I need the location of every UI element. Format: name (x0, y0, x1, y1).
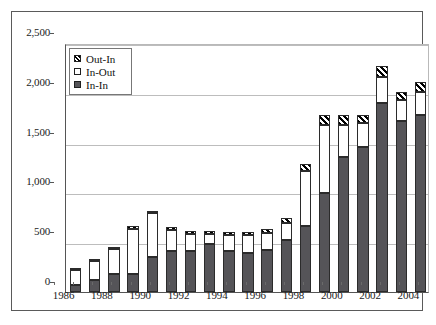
y-axis-tick-label: 1,500 (4, 127, 50, 138)
chart-legend: Out-InIn-OutIn-In (69, 48, 132, 95)
y-axis-tick-label: 0 (4, 276, 50, 287)
bar-segment-in-out[interactable] (204, 234, 215, 244)
bar-segment-out-in[interactable] (147, 211, 158, 214)
bar-segment-in-out[interactable] (127, 229, 138, 274)
y-axis-tick-label: 500 (4, 226, 50, 237)
bar-segment-out-in[interactable] (108, 247, 119, 250)
bar-segment-out-in[interactable] (396, 92, 407, 100)
x-axis-tick-mark (226, 282, 227, 285)
bar-segment-out-in[interactable] (357, 115, 368, 123)
bar-segment-in-in[interactable] (376, 103, 387, 292)
white-swatch-icon (74, 68, 81, 75)
bar-group[interactable] (415, 43, 426, 292)
bar-segment-out-in[interactable] (242, 232, 253, 235)
x-axis-tick-mark (361, 282, 362, 285)
x-axis-tick-mark (303, 282, 304, 285)
x-axis-tick-mark (207, 282, 208, 285)
bar-segment-in-out[interactable] (415, 92, 426, 115)
bar-segment-in-out[interactable] (338, 125, 349, 157)
bar-group[interactable] (204, 43, 215, 292)
bar-group[interactable] (396, 43, 407, 292)
x-axis-tick-mark (322, 282, 323, 285)
bar-segment-in-in[interactable] (300, 226, 311, 292)
legend-item-label: In-Out (86, 66, 115, 78)
bar-segment-in-out[interactable] (147, 213, 158, 257)
bar-segment-out-in[interactable] (281, 218, 292, 222)
bar-group[interactable] (319, 43, 330, 292)
bar-segment-in-in[interactable] (261, 250, 272, 292)
bar-segment-in-in[interactable] (223, 251, 234, 292)
bar-segment-in-out[interactable] (242, 235, 253, 253)
bar-segment-in-in[interactable] (396, 121, 407, 292)
bar-group[interactable] (357, 43, 368, 292)
bar-segment-in-out[interactable] (185, 234, 196, 250)
bar-segment-in-out[interactable] (70, 270, 81, 285)
bar-group[interactable] (376, 43, 387, 292)
bar-segment-out-in[interactable] (70, 268, 81, 271)
bar-segment-in-out[interactable] (357, 123, 368, 146)
bar-group[interactable] (166, 43, 177, 292)
bar-segment-in-in[interactable] (415, 115, 426, 292)
y-axis-tick-mark (50, 83, 54, 84)
bar-segment-in-out[interactable] (166, 230, 177, 251)
bar-segment-in-in[interactable] (319, 193, 330, 292)
bar-segment-in-in[interactable] (242, 253, 253, 292)
bar-segment-in-out[interactable] (281, 223, 292, 240)
bar-segment-in-out[interactable] (89, 261, 100, 280)
x-axis-tick-mark (188, 282, 189, 285)
bar-segment-in-out[interactable] (108, 249, 119, 274)
bar-group[interactable] (281, 43, 292, 292)
bar-segment-in-in[interactable] (357, 147, 368, 292)
bar-group[interactable] (261, 43, 272, 292)
legend-item: In-Out (74, 65, 127, 78)
bar-segment-in-in[interactable] (166, 251, 177, 292)
bar-segment-out-in[interactable] (185, 231, 196, 234)
y-axis-tick-label: 2,500 (4, 27, 50, 38)
y-axis-tick-mark (50, 33, 54, 34)
bar-segment-in-out[interactable] (376, 77, 387, 102)
bar-segment-out-in[interactable] (338, 115, 349, 125)
bar-segment-out-in[interactable] (300, 164, 311, 171)
figure-frame: 05001,0001,5002,0002,500 198619881990199… (11, 11, 423, 311)
bar-segment-in-out[interactable] (300, 171, 311, 227)
bar-segment-in-in[interactable] (281, 240, 292, 292)
bar-segment-out-in[interactable] (415, 82, 426, 92)
x-axis-tick-mark (284, 282, 285, 285)
bar-segment-out-in[interactable] (89, 259, 100, 262)
legend-item: Out-In (74, 52, 127, 65)
y-axis-tick-label: 1,000 (4, 176, 50, 187)
bar-segment-in-out[interactable] (261, 233, 272, 250)
bar-segment-in-out[interactable] (319, 125, 330, 193)
bar-segment-out-in[interactable] (127, 226, 138, 229)
bar-segment-in-out[interactable] (223, 235, 234, 251)
x-axis-tick-label: 2004 (386, 289, 430, 301)
x-axis-tick-mark (169, 282, 170, 285)
bar-group[interactable] (185, 43, 196, 292)
bar-segment-out-in[interactable] (166, 227, 177, 230)
y-axis-tick-mark (50, 232, 54, 233)
x-axis-tick-mark (150, 282, 151, 285)
hatch-swatch-icon (74, 55, 81, 62)
bar-group[interactable] (242, 43, 253, 292)
legend-item-label: In-In (86, 79, 108, 91)
legend-item-label: Out-In (86, 53, 115, 65)
bar-segment-in-in[interactable] (338, 157, 349, 292)
bar-segment-in-in[interactable] (204, 244, 215, 292)
bar-segment-out-in[interactable] (261, 229, 272, 232)
bar-group[interactable] (223, 43, 234, 292)
bar-segment-in-in[interactable] (185, 251, 196, 292)
x-axis-tick-mark (265, 282, 266, 285)
bar-group[interactable] (147, 43, 158, 292)
bar-segment-in-in[interactable] (147, 257, 158, 292)
bar-segment-out-in[interactable] (319, 115, 330, 125)
bar-segment-in-out[interactable] (396, 100, 407, 121)
x-axis-tick-mark (111, 282, 112, 285)
dark-swatch-icon (74, 81, 81, 88)
x-axis-tick-mark (246, 282, 247, 285)
bar-segment-out-in[interactable] (376, 66, 387, 77)
x-axis-tick-mark (54, 282, 55, 285)
bar-segment-out-in[interactable] (204, 231, 215, 234)
bar-group[interactable] (300, 43, 311, 292)
bar-segment-out-in[interactable] (223, 232, 234, 235)
bar-group[interactable] (338, 43, 349, 292)
